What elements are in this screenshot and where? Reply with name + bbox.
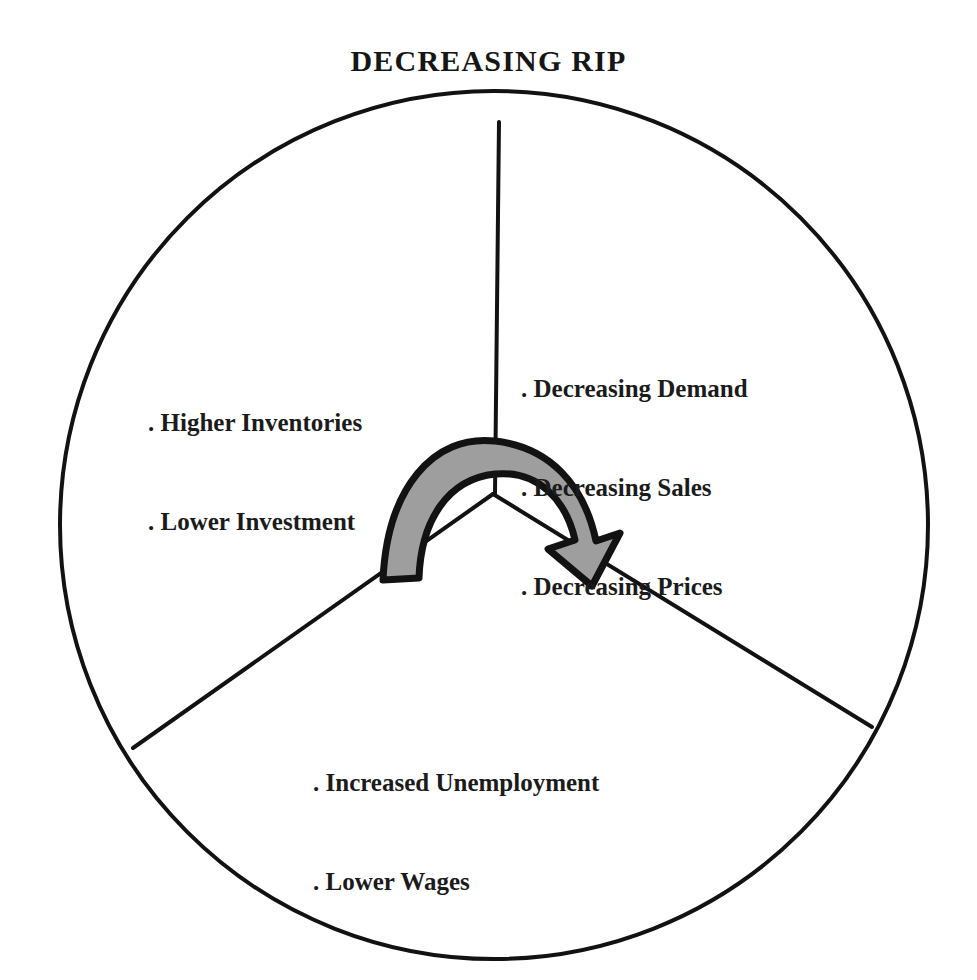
sector-bottom-line-2: . Lower Wages xyxy=(313,865,599,898)
sector-bottom-line-1: . Increased Unemployment xyxy=(313,766,599,799)
sector-right-line-3: . Decreasing Prices xyxy=(521,570,748,603)
sector-label-right: . Decreasing Demand . Decreasing Sales .… xyxy=(521,306,748,669)
sector-left-line-1: . Higher Inventories xyxy=(148,406,362,439)
sector-right-line-1: . Decreasing Demand xyxy=(521,372,748,405)
sector-label-bottom: . Increased Unemployment . Lower Wages xyxy=(313,700,599,964)
sector-right-line-2: . Decreasing Sales xyxy=(521,471,748,504)
sector-label-left: . Higher Inventories . Lower Investment xyxy=(148,340,362,604)
diagram-canvas: DECREASING RIP . Decreasing Demand . Dec… xyxy=(0,0,977,980)
sector-left-line-2: . Lower Investment xyxy=(148,505,362,538)
